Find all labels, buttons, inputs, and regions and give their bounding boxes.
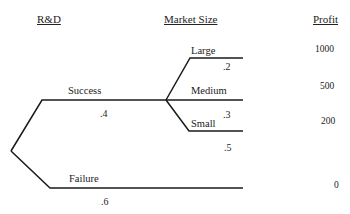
header-profit: Profit — [313, 14, 338, 25]
profit-medium: 500 — [320, 82, 334, 92]
header-rd: R&D — [37, 14, 61, 25]
medium-label: Medium — [191, 86, 227, 97]
large-probability: .2 — [223, 62, 231, 72]
profit-failure: 0 — [334, 181, 339, 191]
profit-large: 1000 — [315, 45, 334, 55]
header-market-size: Market Size — [164, 14, 217, 25]
decision-tree-lines — [0, 0, 350, 214]
medium-probability: .3 — [223, 110, 231, 120]
success-probability: .4 — [100, 109, 108, 119]
profit-small: 200 — [321, 117, 335, 127]
success-label: Success — [68, 86, 101, 97]
large-label: Large — [191, 46, 215, 57]
failure-branch-line — [11, 151, 243, 188]
small-probability: .5 — [224, 143, 232, 153]
success-branch-line — [11, 100, 166, 151]
failure-probability: .6 — [101, 197, 109, 207]
failure-label: Failure — [69, 174, 99, 185]
small-label: Small — [191, 119, 216, 130]
